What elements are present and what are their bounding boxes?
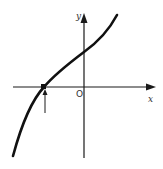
y-axis-arrowhead-icon [81, 13, 88, 23]
y-axis [81, 13, 88, 158]
function-curve [13, 15, 117, 156]
x-axis-arrowhead-icon [146, 84, 156, 91]
y-axis-label: y [76, 12, 81, 21]
root-arrow-head-icon [43, 89, 48, 95]
origin-label: O [76, 90, 83, 99]
x-axis-label: x [148, 95, 153, 104]
root-marker [41, 84, 46, 89]
function-graph: y O x [0, 0, 163, 169]
root-arrow [43, 89, 48, 113]
